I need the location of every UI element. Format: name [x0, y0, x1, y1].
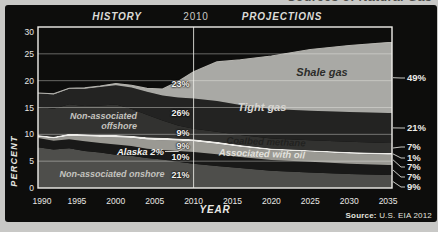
callout-leader-2035 — [393, 154, 405, 158]
y-tick-label: 10 — [8, 129, 34, 139]
series-label-offshore-line1: Non-associated — [40, 111, 137, 121]
x-tick-label: 2015 — [216, 196, 250, 206]
y-tick-label: 20 — [8, 76, 34, 86]
x-tick-label: 1995 — [60, 196, 94, 206]
y-tick-label: 0 — [8, 183, 34, 193]
series-label-shale-gas: Shale gas — [292, 66, 352, 78]
callout-leader-2035 — [393, 147, 405, 148]
divider-year-label: 2010 — [166, 11, 226, 22]
x-tick-label: 2005 — [138, 196, 172, 206]
x-tick-label: 2020 — [254, 196, 288, 206]
pct-2035-label: 7% — [407, 141, 437, 152]
callout-leader-2035 — [393, 170, 405, 177]
series-label-non-associated-offshore: Non-associated offshore — [40, 111, 137, 131]
infographic: Sources of Natural Gas HISTORY 2010 PROJ… — [0, 0, 438, 232]
pct-2010-label: 23% — [150, 79, 190, 89]
pct-2035-label: 49% — [407, 72, 437, 83]
x-tick-label: 2035 — [371, 196, 405, 206]
pct-2035-label: 21% — [407, 122, 437, 133]
y-tick-label: 5 — [8, 156, 34, 166]
x-tick-label: 2030 — [332, 196, 366, 206]
x-tick-label: 1990 — [25, 196, 59, 206]
y-tick-label: 15 — [8, 103, 34, 113]
x-tick-label: 2000 — [99, 196, 133, 206]
source-note: Source: U.S. EIA 2012 — [280, 211, 432, 220]
pct-2010-label: 26% — [150, 108, 190, 118]
section-label-projections: PROJECTIONS — [222, 11, 342, 22]
x-tick-label: 2010 — [177, 196, 211, 206]
source-text: U.S. EIA 2012 — [377, 211, 432, 220]
callout-leader-2035 — [393, 160, 405, 167]
pct-2010-label: 10% — [150, 152, 190, 162]
source-prefix: Source: — [346, 211, 377, 220]
callout-leader-2035 — [393, 182, 405, 187]
pct-2010-label: 9% — [150, 128, 190, 138]
x-tick-label: 2025 — [293, 196, 327, 206]
series-label-tight-gas: Tight gas — [232, 101, 292, 113]
pct-2010-label: 21% — [150, 170, 190, 180]
pct-2010-label: 9% — [150, 141, 190, 151]
pct-2035-label: 9% — [407, 181, 437, 192]
section-label-history: HISTORY — [77, 11, 157, 22]
y-tick-label: 25 — [8, 49, 34, 59]
series-label-offshore-line2: offshore — [40, 121, 137, 131]
y-tick-label: 30 — [8, 27, 34, 37]
